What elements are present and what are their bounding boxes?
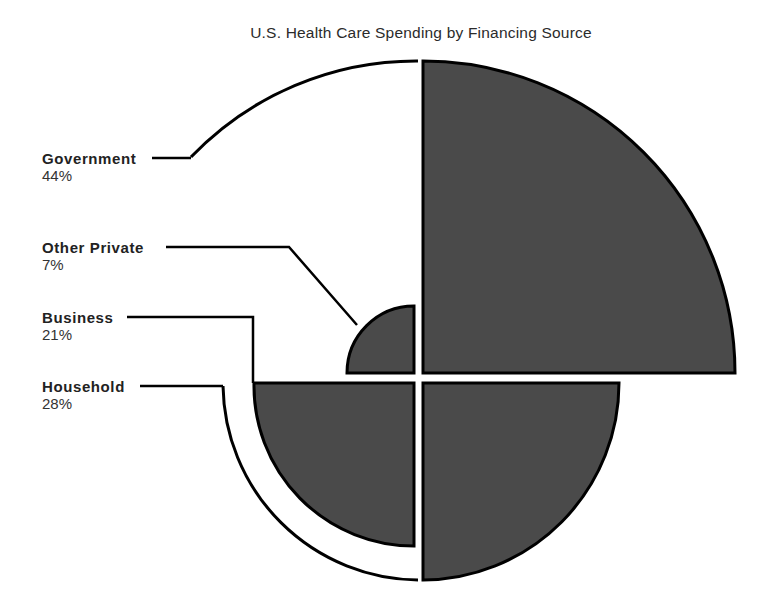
slice-other-private[interactable] bbox=[347, 306, 414, 373]
label-government: Government 44% bbox=[42, 150, 136, 184]
business-leader-line bbox=[127, 317, 253, 383]
other-private-leader-line bbox=[166, 247, 357, 325]
label-business: Business 21% bbox=[42, 309, 114, 343]
label-other-private: Other Private 7% bbox=[42, 239, 144, 273]
label-government-name: Government bbox=[42, 150, 136, 167]
slice-household[interactable] bbox=[423, 383, 619, 580]
slice-government[interactable] bbox=[423, 61, 735, 373]
label-household-name: Household bbox=[42, 378, 125, 395]
label-household-pct: 28% bbox=[42, 395, 125, 412]
label-other-private-name: Other Private bbox=[42, 239, 144, 256]
label-government-pct: 44% bbox=[42, 167, 136, 184]
label-business-pct: 21% bbox=[42, 326, 114, 343]
label-household: Household 28% bbox=[42, 378, 125, 412]
quadrant-chart bbox=[0, 0, 773, 598]
label-other-private-pct: 7% bbox=[42, 256, 144, 273]
label-business-name: Business bbox=[42, 309, 114, 326]
government-reference-arc bbox=[191, 61, 418, 157]
